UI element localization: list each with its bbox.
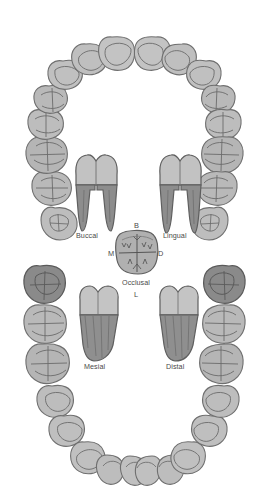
tooth-maxillary-left-second-molar[interactable] xyxy=(32,172,71,206)
compass-label-mesial: M xyxy=(108,250,114,257)
tooth-view-occlusal[interactable] xyxy=(116,230,158,274)
compass-label-buccal: B xyxy=(134,222,139,229)
tooth-mandibular-left-second-molar[interactable] xyxy=(24,305,66,343)
tooth-mandibular-right-first-premolar[interactable] xyxy=(192,415,228,446)
tooth-mandibular-left-third-molar-highlighted[interactable] xyxy=(24,265,65,303)
tooth-maxillary-right-second-molar[interactable] xyxy=(198,172,237,206)
dental-illustration xyxy=(0,0,269,503)
label-buccal: Buccal xyxy=(76,232,98,239)
tooth-mandibular-right-canine[interactable] xyxy=(171,442,205,474)
tooth-maxillary-left-third-molar[interactable] xyxy=(41,207,77,240)
tooth-view-mesial[interactable] xyxy=(80,286,118,361)
tooth-mandibular-right-second-molar[interactable] xyxy=(203,305,245,343)
tooth-maxillary-right-first-molar[interactable] xyxy=(202,137,243,173)
tooth-mandibular-left-lateral-incisor[interactable] xyxy=(96,455,123,484)
compass-label-distal: D xyxy=(158,250,163,257)
tooth-maxillary-left-central-incisor[interactable] xyxy=(99,37,135,71)
compass-label-lingual: L xyxy=(134,291,138,298)
label-occlusal: Occlusal xyxy=(122,279,150,286)
label-lingual: Lingual xyxy=(163,232,187,239)
tooth-mandibular-left-second-premolar[interactable] xyxy=(37,385,74,417)
tooth-mandibular-right-second-premolar[interactable] xyxy=(203,385,240,417)
dental-diagram: Buccal Lingual Occlusal Mesial Distal B … xyxy=(0,0,269,503)
tooth-mandibular-right-third-molar-highlighted[interactable] xyxy=(204,265,245,303)
tooth-maxillary-right-second-premolar[interactable] xyxy=(206,109,242,139)
tooth-mandibular-left-first-premolar[interactable] xyxy=(49,415,85,446)
tooth-view-buccal[interactable] xyxy=(76,155,117,231)
tooth-view-distal[interactable] xyxy=(160,286,198,361)
tooth-view-lingual[interactable] xyxy=(160,155,201,233)
label-mesial: Mesial xyxy=(84,363,105,370)
tooth-mandibular-left-first-molar[interactable] xyxy=(26,344,69,384)
tooth-maxillary-left-first-molar[interactable] xyxy=(26,137,67,173)
tooth-maxillary-left-second-premolar[interactable] xyxy=(28,109,64,139)
label-distal: Distal xyxy=(166,363,184,370)
tooth-mandibular-right-first-molar[interactable] xyxy=(200,344,243,384)
maxillary-arch xyxy=(26,37,243,240)
